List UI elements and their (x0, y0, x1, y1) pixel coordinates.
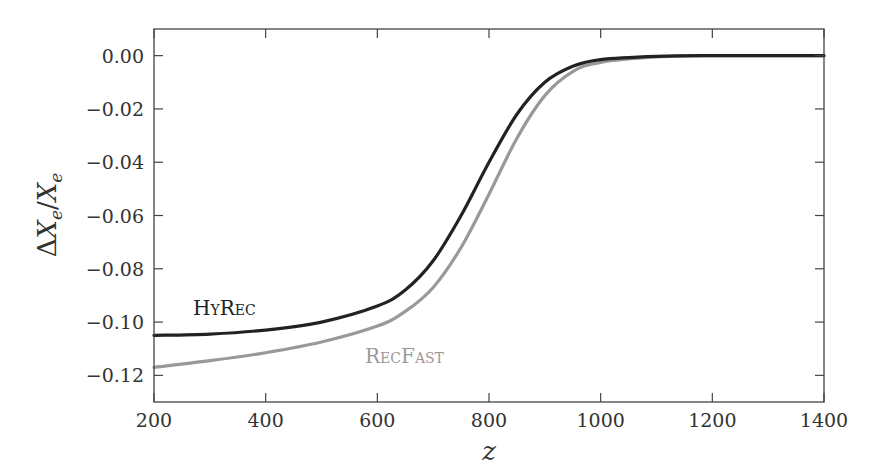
series-line-recfast (154, 56, 824, 368)
plot-curves (154, 56, 824, 368)
y-tick-label: −0.04 (86, 151, 144, 173)
x-axis-ticks: 200400600800100012001400 (136, 29, 848, 431)
x-axis-title: z (481, 436, 496, 466)
series-label-recfast: RecFast (365, 344, 445, 368)
chart-container: 0.00−0.02−0.04−0.06−0.08−0.10−0.12 20040… (0, 0, 880, 476)
x-tick-label: 1400 (800, 409, 848, 431)
x-tick-label: 1200 (688, 409, 736, 431)
y-axis-title: ΔXe/Xe (32, 173, 66, 258)
y-tick-label: −0.02 (86, 98, 144, 120)
y-tick-label: −0.10 (86, 311, 144, 333)
x-tick-label: 800 (471, 409, 507, 431)
x-tick-label: 200 (136, 409, 172, 431)
x-tick-label: 1000 (576, 409, 624, 431)
svg-text:ΔXe/Xe: ΔXe/Xe (32, 173, 66, 258)
y-tick-label: −0.12 (86, 364, 144, 386)
y-tick-label: −0.08 (86, 258, 144, 280)
line-chart: 0.00−0.02−0.04−0.06−0.08−0.10−0.12 20040… (0, 0, 880, 476)
y-tick-label: −0.06 (86, 205, 144, 227)
x-tick-label: 600 (359, 409, 395, 431)
plot-frame (154, 29, 824, 402)
x-tick-label: 400 (248, 409, 284, 431)
y-tick-label: 0.00 (102, 45, 144, 67)
series-label-hyrec: HyRec (193, 296, 256, 320)
